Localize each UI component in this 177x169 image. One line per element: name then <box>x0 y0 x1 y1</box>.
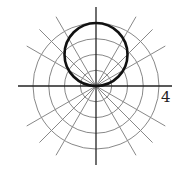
radius-tick-label: 4 <box>161 88 171 106</box>
polar-graph <box>0 0 177 169</box>
